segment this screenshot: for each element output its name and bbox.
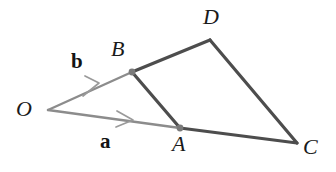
label-point-D: D <box>203 6 219 28</box>
segment-D-C <box>210 40 297 143</box>
label-point-C: C <box>303 136 318 158</box>
arrowhead-vector-b-icon <box>83 76 99 96</box>
segment-B-A <box>132 72 180 128</box>
diagram-canvas <box>0 0 336 172</box>
segment-B-D <box>132 40 210 72</box>
label-vector-b: b <box>71 51 83 72</box>
label-vector-a: a <box>100 131 111 152</box>
point-marker-B <box>129 69 136 76</box>
label-point-B: B <box>111 38 124 60</box>
label-point-A: A <box>172 133 185 155</box>
label-point-O: O <box>16 98 32 120</box>
vector-diagram-figure: O B D A C b a <box>0 0 336 172</box>
segment-O-A <box>48 110 180 128</box>
segment-A-C <box>180 128 297 143</box>
